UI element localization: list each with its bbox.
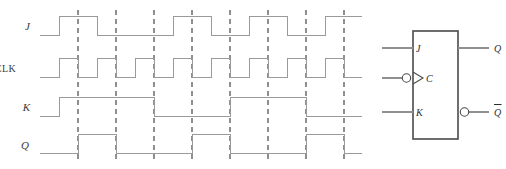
inversion-bubble-icon — [402, 74, 410, 82]
waveform-q — [40, 134, 362, 153]
jk-flipflop-timing-figure: JCLKKQ JCKQQ — [0, 0, 506, 169]
signal-labels: JCLKKQ — [0, 20, 31, 151]
signal-label-clk: CLK — [0, 63, 16, 74]
pin-label-k: K — [415, 107, 424, 118]
waveform-clk — [40, 58, 362, 77]
output-label-qbar: Q — [494, 107, 502, 118]
waveform-j — [40, 16, 362, 35]
jk-flipflop-symbol: JCKQQ — [382, 31, 502, 139]
waveform-k — [40, 97, 362, 116]
inversion-bubble-icon — [460, 108, 468, 116]
signal-label-k: K — [22, 101, 31, 113]
signal-label-j: J — [25, 20, 31, 32]
pin-label-c: C — [426, 73, 433, 84]
waveform-traces — [40, 16, 362, 153]
figure-root: JCLKKQ JCKQQ — [0, 0, 506, 169]
signal-label-q: Q — [21, 139, 29, 151]
pin-label-j: J — [416, 43, 421, 54]
output-label-q: Q — [494, 43, 502, 54]
